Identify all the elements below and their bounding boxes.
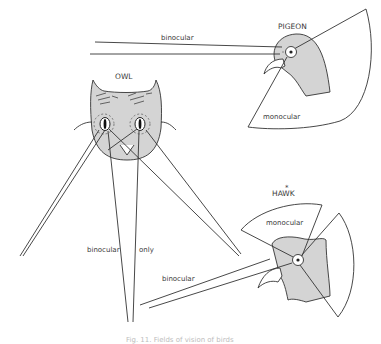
pigeon-pupil xyxy=(289,50,292,53)
pigeon-binocular-line-top xyxy=(95,42,282,47)
owl-right-outer-line xyxy=(146,130,241,254)
owl-left-pupil xyxy=(104,119,107,129)
pigeon-binocular-label: binocular xyxy=(161,34,194,42)
figure-caption: Fig. 11. Fields of vision of birds xyxy=(126,336,234,344)
owl-left-whisker xyxy=(74,122,92,130)
owl-left-cross-line xyxy=(109,129,239,256)
owl-left-outer-line xyxy=(20,130,99,256)
owl-left-inner-line xyxy=(23,130,105,256)
hawk-binocular-line-bottom xyxy=(149,263,292,308)
owl-only-label: only xyxy=(139,246,154,254)
owl-title: OWL xyxy=(115,72,133,81)
pigeon-monocular-label: monocular xyxy=(263,113,300,121)
hawk-binocular-label: binocular xyxy=(162,275,195,283)
hawk-pupil xyxy=(296,258,299,261)
hawk-beak xyxy=(258,268,282,288)
hawk-binocular-line-top xyxy=(140,259,270,305)
owl-binocular-label: binocular xyxy=(87,246,120,254)
owl-right-pupil xyxy=(139,119,142,129)
hawk-group: * HAWK monocular binocular xyxy=(140,184,354,317)
hawk-right-fan-arc xyxy=(338,213,354,317)
vision-fields-diagram: PIGEON binocular monocular OWL bino xyxy=(0,0,381,344)
pigeon-title: PIGEON xyxy=(278,22,307,31)
hawk-monocular-label: monocular xyxy=(266,219,303,227)
owl-right-whisker xyxy=(161,122,176,130)
owl-group: OWL binocular only xyxy=(20,72,241,322)
hawk-title: HAWK xyxy=(272,189,296,198)
